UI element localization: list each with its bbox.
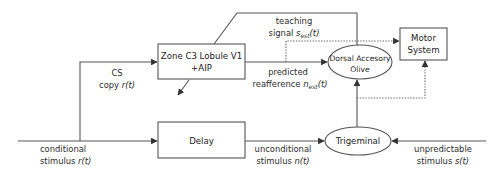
predicted-line1: predicted xyxy=(268,67,308,77)
motor-label-line1: Motor xyxy=(411,33,436,43)
cs-copy-prefix: copy xyxy=(99,80,122,90)
cs-copy-line2: copy r(t) xyxy=(99,80,135,90)
trigeminal-node: Trigeminal xyxy=(325,127,391,155)
conditional-var: r(t) xyxy=(78,156,91,166)
conditional-prefix: stimulus xyxy=(40,156,78,166)
predicted-reafference-label: predicted reafference nest(t) xyxy=(253,67,328,90)
teaching-var-suffix: (t) xyxy=(310,28,320,38)
cs-copy-line1: CS xyxy=(111,68,122,78)
zone-c3-label-line2: +AIP xyxy=(191,63,212,73)
olive-label-line1: Dorsal Accesory xyxy=(329,54,391,63)
teaching-line1: teaching xyxy=(276,16,312,26)
conditional-line1: conditional xyxy=(40,144,86,154)
unconditional-line2: stimulus n(t) xyxy=(256,156,309,166)
delay-node: Delay xyxy=(158,122,245,158)
unconditional-line1: unconditional xyxy=(255,144,312,154)
delay-label: Delay xyxy=(189,136,214,146)
unpredictable-prefix: stimulus xyxy=(417,156,455,166)
motor-system-node: Motor System xyxy=(400,28,447,60)
unpredictable-var: s(t) xyxy=(455,156,469,166)
cs-copy-var: r(t) xyxy=(122,80,135,90)
unconditional-stimulus-label: unconditional stimulus n(t) xyxy=(255,144,312,166)
predicted-prefix: reafference xyxy=(253,79,304,89)
zone-output-arrow xyxy=(178,80,189,95)
zone-c3-label-line1: Zone C3 Lobule V1 xyxy=(161,51,242,61)
predicted-var-suffix: (t) xyxy=(318,79,328,89)
cs-copy-label: CS copy r(t) xyxy=(99,68,135,90)
teaching-line2: signal sest(t) xyxy=(269,28,320,39)
olive-label-line2: Olive xyxy=(350,65,370,74)
unconditional-prefix: stimulus xyxy=(256,156,294,166)
dorsal-accessory-olive-node: Dorsal Accesory Olive xyxy=(328,45,392,79)
cerebellar-learning-diagram: Zone C3 Lobule V1 +AIP Delay Dorsal Acce… xyxy=(0,0,503,175)
teaching-signal-label: teaching signal sest(t) xyxy=(269,16,320,39)
unpredictable-line2: stimulus s(t) xyxy=(417,156,469,166)
conditional-line2: stimulus r(t) xyxy=(40,156,91,166)
teaching-prefix: signal xyxy=(269,28,296,38)
trigeminal-label: Trigeminal xyxy=(335,136,381,146)
conditional-stimulus-label: conditional stimulus r(t) xyxy=(40,144,91,166)
unpredictable-stimulus-label: unpredictable stimulus s(t) xyxy=(414,144,472,166)
unconditional-var: n(t) xyxy=(294,156,309,166)
zone-c3-node: Zone C3 Lobule V1 +AIP xyxy=(158,44,245,79)
unpredictable-line1: unpredictable xyxy=(414,144,472,154)
predicted-line2: reafference nest(t) xyxy=(253,79,328,90)
motor-label-line2: System xyxy=(407,45,439,55)
